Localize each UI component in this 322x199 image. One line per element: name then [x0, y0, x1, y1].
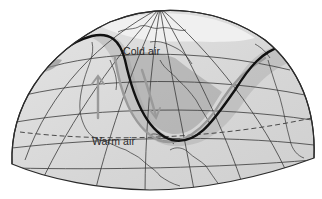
jet-stream-diagram: Cold air Warm air: [0, 0, 322, 199]
cold-air-label: Cold air: [123, 46, 160, 57]
warm-air-label: Warm air: [92, 136, 135, 147]
globe-illustration: [0, 0, 322, 199]
